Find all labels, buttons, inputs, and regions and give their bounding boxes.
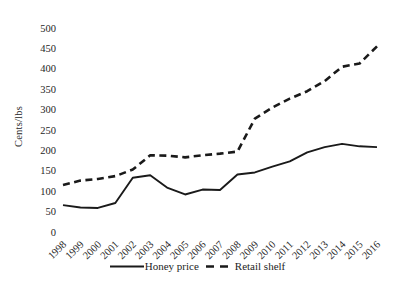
legend-label-honey-price: Honey price bbox=[145, 260, 199, 272]
dashed-line-swatch bbox=[206, 263, 234, 270]
y-tick-label: 500 bbox=[40, 23, 56, 34]
y-tick-label: 400 bbox=[40, 63, 56, 74]
y-tick-label: 100 bbox=[40, 186, 56, 197]
y-tick-label: 0 bbox=[51, 227, 56, 238]
y-tick-label: 150 bbox=[40, 165, 56, 176]
legend-item-retail-shelf: Retail shelf bbox=[206, 260, 285, 272]
y-tick-label: 350 bbox=[40, 84, 56, 95]
y-axis-title: Cents/lbs bbox=[13, 82, 24, 172]
y-tick-label: 450 bbox=[40, 43, 56, 54]
y-tick-label: 300 bbox=[40, 104, 56, 115]
plot-area: 0501001502002503003504004505001998199920… bbox=[0, 0, 395, 297]
solid-line-swatch bbox=[110, 263, 144, 270]
y-tick-label: 250 bbox=[40, 125, 56, 136]
y-tick-label: 50 bbox=[46, 206, 57, 217]
honey-price-chart: 0501001502002503003504004505001998199920… bbox=[0, 0, 395, 297]
legend-label-retail-shelf: Retail shelf bbox=[235, 260, 285, 272]
y-tick-label: 200 bbox=[40, 145, 56, 156]
chart-legend: Honey price Retail shelf bbox=[0, 256, 395, 276]
legend-item-honey-price: Honey price bbox=[110, 260, 199, 272]
retail-shelf-line bbox=[63, 46, 377, 185]
